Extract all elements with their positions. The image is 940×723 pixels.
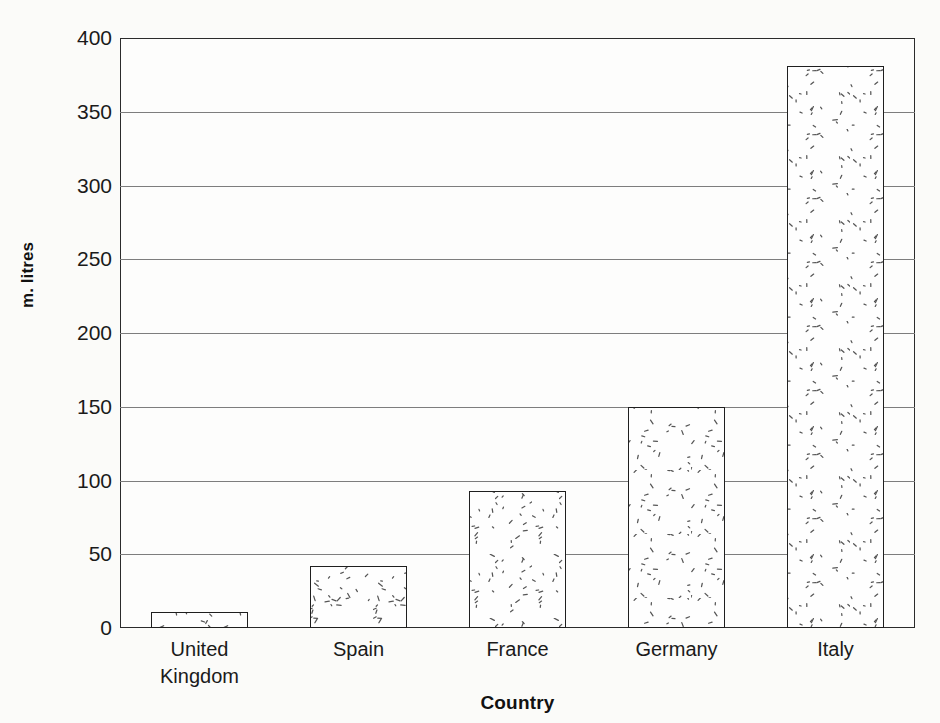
x-axis-tick-label: Germany <box>597 636 756 696</box>
bar-slot <box>438 38 597 628</box>
x-axis-tick-label: UnitedKingdom <box>120 636 279 696</box>
bars-container <box>120 38 915 628</box>
bar-fill-pattern <box>469 491 566 628</box>
x-axis-tick-label-line: France <box>438 636 597 663</box>
y-axis-tick-label: 350 <box>8 101 112 122</box>
bar-slot <box>597 38 756 628</box>
y-axis-tick-label: 50 <box>8 543 112 564</box>
y-axis-tick-labels: 050100150200250300350400 <box>0 0 112 723</box>
x-axis-tick-label-line: Germany <box>597 636 756 663</box>
y-axis-tick-label: 400 <box>8 27 112 48</box>
bar-fill-pattern <box>310 566 407 628</box>
x-axis-tick-labels: UnitedKingdomSpainFranceGermanyItaly <box>120 636 915 696</box>
y-axis-tick-label: 0 <box>8 617 112 638</box>
bar[interactable] <box>151 612 248 628</box>
bar[interactable] <box>628 407 725 628</box>
plot-area <box>120 38 915 628</box>
x-axis-title: Country <box>120 692 915 714</box>
y-axis-tick-label: 150 <box>8 396 112 417</box>
bar-fill-pattern <box>151 612 248 628</box>
x-axis-tick-label-line: Spain <box>279 636 438 663</box>
x-axis-tick-label-line: Kingdom <box>120 663 279 690</box>
bar-slot <box>120 38 279 628</box>
x-axis-tick-label: Italy <box>756 636 915 696</box>
x-axis-tick-label-line: Italy <box>756 636 915 663</box>
bar-chart: m. litres 050100150200250300350400 Unite… <box>0 0 940 723</box>
x-axis-tick-label: Spain <box>279 636 438 696</box>
x-axis-tick-label: France <box>438 636 597 696</box>
bar-slot <box>756 38 915 628</box>
y-axis-tick-label: 200 <box>8 322 112 343</box>
x-axis-tick-label-line: United <box>120 636 279 663</box>
bar[interactable] <box>469 491 566 628</box>
bar[interactable] <box>310 566 407 628</box>
y-axis-tick-label: 250 <box>8 248 112 269</box>
y-axis-tick-label: 300 <box>8 175 112 196</box>
bar-slot <box>279 38 438 628</box>
bar-fill-pattern <box>628 407 725 628</box>
bar-fill-pattern <box>787 66 884 628</box>
bar[interactable] <box>787 66 884 628</box>
y-axis-tick-label: 100 <box>8 470 112 491</box>
